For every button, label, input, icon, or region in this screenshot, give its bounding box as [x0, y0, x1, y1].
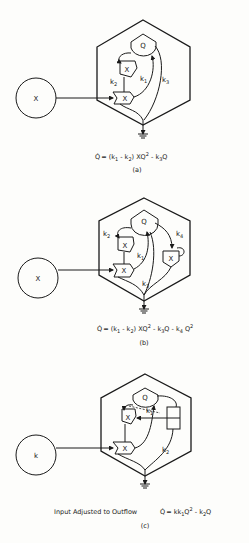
- energy-circuit-diagrams: X Q X X k2 k1 k3: [0, 0, 249, 543]
- right-drain-b: [144, 267, 171, 295]
- workgate-label-lower-a: X: [123, 95, 128, 103]
- storage-label-a: Q: [140, 42, 146, 50]
- panel-a: X Q X X k2 k1 k3: [16, 20, 190, 174]
- rate-k2-c: k2: [162, 446, 169, 455]
- panel-c: k Q X k1 X k2 Input Adjusted: [16, 374, 211, 530]
- heat-sink-icon-c: [140, 470, 150, 488]
- storage-label-c: Q: [142, 394, 148, 402]
- workgate-drain-a: [120, 104, 143, 120]
- source-label-a: X: [34, 95, 39, 103]
- workgate-drain-b: [118, 277, 144, 295]
- outflow-to-sensor-c: [157, 396, 176, 407]
- caption-a: (a): [132, 166, 141, 174]
- rate-k4-b: k4: [176, 230, 183, 239]
- equation-c: Q̇= kk1Q2 - k2Q: [160, 506, 211, 517]
- rate-k2-a: k2: [110, 78, 117, 87]
- equation-b: Q̇= (k1 - k2) XQ2 - k3Q - k4 Q2: [97, 323, 193, 334]
- workgate-label-upper-a: X: [125, 66, 130, 74]
- source-label-c: k: [34, 452, 39, 460]
- feedback-loop-b: [118, 228, 131, 238]
- workgate-label-right-b: X: [169, 255, 174, 263]
- k1-flow-b: [134, 232, 148, 269]
- rate-k1-b: k1: [137, 252, 144, 261]
- rate-k1-a: k1: [140, 75, 147, 84]
- caption-c: (c): [141, 522, 150, 530]
- equation-a: Q̇= (k1 - k2) XQ2 - k3Q: [95, 151, 167, 162]
- storage-label-b: Q: [141, 218, 147, 226]
- panel-b: X Q X k2 X k1 k3 X k4: [18, 198, 193, 347]
- rate-k1-c: k1: [146, 407, 153, 416]
- heat-sink-icon-b: [139, 295, 149, 313]
- workgate-label-lower-b: X: [122, 267, 127, 275]
- workgate-label-upper-c: X: [126, 414, 131, 422]
- source-label-b: X: [36, 275, 41, 283]
- caption-b: (b): [139, 339, 148, 347]
- source-circle-a: X: [16, 78, 56, 118]
- rate-k3-b: k3: [142, 280, 149, 289]
- rate-k2-b: k2: [103, 230, 110, 239]
- rate-k3-a: k3: [162, 76, 169, 85]
- input-adjusted-note-c: Input Adjusted to Outflow: [54, 508, 138, 516]
- workgate-label-upper-b: X: [123, 242, 128, 250]
- workgate-label-lower-c: X: [123, 445, 128, 453]
